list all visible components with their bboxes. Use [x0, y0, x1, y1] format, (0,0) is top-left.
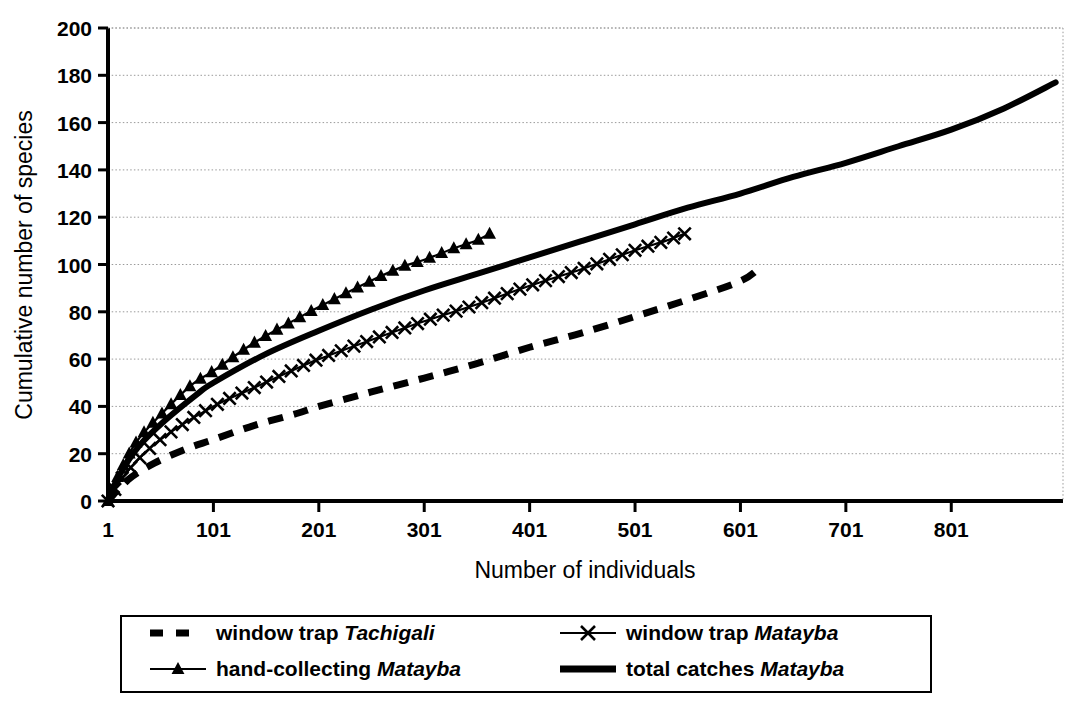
y-tick-label-80: 80 [69, 301, 92, 324]
y-tick-label-120: 120 [57, 206, 92, 229]
y-tick-label-0: 0 [80, 490, 92, 513]
x-tick-label-601: 601 [723, 518, 758, 541]
marker-x [667, 232, 679, 244]
y-tick-label-140: 140 [57, 159, 92, 182]
legend-label: window trap Tachigali [215, 621, 436, 644]
marker-x [678, 228, 690, 240]
marker-x [501, 287, 513, 299]
marker-x [248, 381, 260, 393]
x-tick-label-101: 101 [196, 518, 231, 541]
y-axis-tick-labels: 020406080100120140160180200 [57, 17, 92, 513]
series-line [108, 82, 1056, 501]
marker-x [565, 266, 577, 278]
data-series-group [102, 82, 1056, 507]
x-tick-label-401: 401 [512, 518, 547, 541]
marker-x [360, 335, 372, 347]
legend-label-species: Matayba [754, 621, 838, 644]
marker-triangle [483, 227, 496, 239]
marker-triangle [205, 365, 218, 377]
marker-x [310, 354, 322, 366]
marker-triangle [282, 316, 295, 328]
marker-triangle [226, 350, 239, 362]
x-axis-tick-labels: 1101201301401501601701801 [102, 518, 969, 541]
marker-triangle [472, 233, 485, 245]
series-total-catches-matayba [108, 82, 1056, 501]
marker-x [655, 236, 667, 248]
legend-label-prefix: window trap [625, 621, 754, 644]
legend-label-prefix: window trap [215, 621, 344, 644]
x-tick-label-501: 501 [618, 518, 653, 541]
y-tick-label-180: 180 [57, 64, 92, 87]
y-tick-label-160: 160 [57, 112, 92, 135]
y-axis-title: Cumulative number of species [11, 110, 37, 419]
y-tick-label-200: 200 [57, 17, 92, 40]
legend-label-prefix: hand-collecting [216, 657, 377, 680]
marker-x [273, 370, 285, 382]
marker-triangle [305, 304, 318, 316]
legend-label: window trap Matayba [625, 621, 839, 644]
marker-x [552, 270, 564, 282]
legend-label-species: Tachigali [344, 621, 435, 644]
marker-x [488, 292, 500, 304]
marker-triangle [194, 372, 207, 384]
marker-x [578, 262, 590, 274]
marker-x [285, 365, 297, 377]
marker-triangle [271, 323, 284, 335]
marker-x [463, 301, 475, 313]
marker-x [348, 340, 360, 352]
series-hand-collecting-matayba [102, 227, 496, 506]
x-tick-label-801: 801 [934, 518, 969, 541]
legend-label-species: Matayba [760, 657, 844, 680]
y-tick-label-100: 100 [57, 254, 92, 277]
marker-x [424, 313, 436, 325]
marker-x [603, 253, 615, 265]
x-axis-title: Number of individuals [474, 557, 695, 583]
marker-x [335, 345, 347, 357]
marker-triangle [340, 286, 353, 298]
marker-x [437, 309, 449, 321]
legend-label: total catches Matayba [626, 657, 845, 680]
marker-triangle [328, 292, 341, 304]
legend-label-species: Matayba [377, 657, 461, 680]
marker-triangle [351, 280, 364, 292]
marker-triangle [183, 379, 196, 391]
series-markers [102, 227, 496, 506]
marker-x [539, 274, 551, 286]
marker-x [154, 434, 166, 446]
marker-triangle [237, 343, 250, 355]
marker-triangle [248, 336, 261, 348]
x-tick-label-701: 701 [828, 518, 863, 541]
marker-x [476, 297, 488, 309]
marker-x [386, 326, 398, 338]
marker-x [399, 322, 411, 334]
chart-canvas: 020406080100120140160180200 110120130140… [0, 0, 1085, 712]
marker-x [297, 359, 309, 371]
marker-x [188, 411, 200, 423]
x-tick-label-201: 201 [301, 518, 336, 541]
marker-x [591, 258, 603, 270]
y-tick-label-60: 60 [69, 348, 92, 371]
marker-x [223, 392, 235, 404]
marker-x [260, 376, 272, 388]
legend-label-prefix: total catches [626, 657, 760, 680]
marker-x [629, 244, 641, 256]
species-accumulation-chart: 020406080100120140160180200 110120130140… [0, 0, 1085, 712]
marker-x [642, 240, 654, 252]
y-tick-label-20: 20 [69, 443, 92, 466]
x-tick-label-1: 1 [102, 518, 114, 541]
legend: window trap Tachigaliwindow trap Matayba… [121, 616, 931, 692]
marker-triangle [316, 298, 329, 310]
marker-x [514, 283, 526, 295]
marker-triangle [259, 329, 272, 341]
y-tick-label-40: 40 [69, 395, 92, 418]
marker-x [373, 331, 385, 343]
x-tick-label-301: 301 [407, 518, 442, 541]
marker-x [165, 426, 177, 438]
marker-x [236, 387, 248, 399]
marker-x [176, 418, 188, 430]
legend-label: hand-collecting Matayba [216, 657, 461, 680]
marker-x [616, 249, 628, 261]
marker-x [450, 305, 462, 317]
marker-x [526, 279, 538, 291]
marker-x [322, 349, 334, 361]
